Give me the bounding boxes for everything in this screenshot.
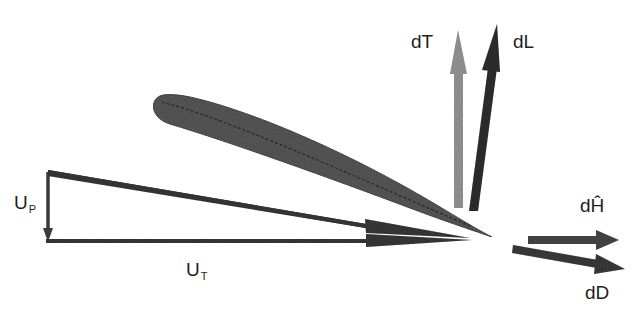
ut-label-main: U bbox=[186, 259, 200, 280]
airfoil bbox=[153, 95, 492, 237]
blade-element-diagram: UP UT dT dL dĤ dD bbox=[0, 0, 639, 326]
dH-label: dĤ bbox=[580, 196, 604, 215]
ut-label-subscript: T bbox=[201, 270, 208, 282]
dL-force-arrow bbox=[469, 24, 500, 211]
dD-label: dD bbox=[585, 283, 609, 302]
dT-force-arrow bbox=[450, 30, 467, 208]
dL-label: dL bbox=[513, 32, 534, 51]
ut-label: UT bbox=[186, 260, 207, 282]
dD-force-arrow bbox=[512, 245, 625, 274]
up-label-main: U bbox=[14, 192, 28, 213]
up-velocity-arrow bbox=[43, 172, 53, 242]
up-label: UP bbox=[14, 193, 36, 215]
up-label-subscript: P bbox=[29, 203, 36, 215]
diagram-svg bbox=[0, 0, 639, 326]
dH-force-arrow bbox=[528, 230, 619, 250]
ut-velocity-arrow bbox=[46, 234, 472, 247]
dT-label: dT bbox=[411, 32, 433, 51]
